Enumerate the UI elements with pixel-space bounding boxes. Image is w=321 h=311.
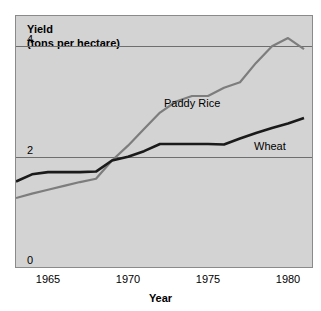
x-tick-label-1975: 1975 [196,273,220,285]
x-axis-title: Year [0,292,321,304]
plot-area: Yield (tons per hectare) 024 Paddy Rice … [15,15,313,268]
x-tick-label-1970: 1970 [116,273,140,285]
x-tick-label-1965: 1965 [36,273,60,285]
series-label-wheat: Wheat [254,140,286,152]
yield-line-chart: Yield (tons per hectare) 024 Paddy Rice … [0,0,321,311]
series-line-paddy-rice [16,38,304,198]
x-tick-label-1980: 1980 [276,273,300,285]
series-label-paddy-rice: Paddy Rice [164,97,220,109]
